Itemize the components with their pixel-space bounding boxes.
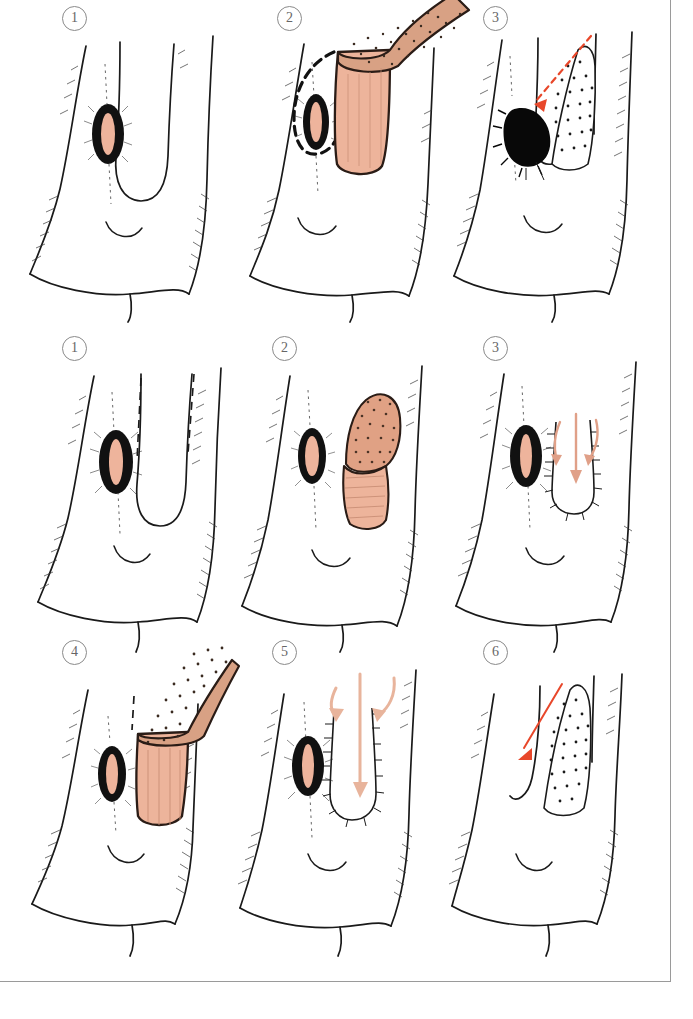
lesion <box>502 425 551 491</box>
body-outline <box>240 670 416 956</box>
dashed-planning-line <box>132 696 134 730</box>
navel-crease <box>308 854 346 870</box>
lesion <box>295 94 339 150</box>
panel-row3-2: 5 <box>238 638 469 956</box>
panel-row2-2: 2 <box>238 334 469 652</box>
dashed-planning-lines <box>137 374 194 460</box>
shading-hatch <box>458 374 632 591</box>
panel-row3-3: 6 <box>452 638 683 956</box>
salmon-arrow-heads <box>329 708 386 798</box>
shading-hatch <box>238 682 412 897</box>
salmon-arrow-heads <box>551 454 595 484</box>
lesion <box>91 746 135 806</box>
navel-crease <box>312 550 350 566</box>
navel-crease <box>106 222 142 237</box>
stippled-donor-area <box>552 47 595 170</box>
panel-row2-3: 3 <box>452 334 683 652</box>
raised-pedicled-flap <box>335 0 469 174</box>
lesion <box>284 736 333 801</box>
figure-frame: 1 <box>0 0 671 982</box>
three-salmon-arrows <box>331 674 394 786</box>
lesion <box>90 430 142 495</box>
body-outline <box>38 368 221 652</box>
red-arrow-head <box>518 748 532 760</box>
navel-crease <box>516 854 552 870</box>
shading-hatch <box>32 50 209 271</box>
panel-row1-2: 2 <box>238 4 469 322</box>
stippled-donor-area <box>544 685 591 815</box>
sutured-defect-edge <box>330 708 376 820</box>
folded-flap-island <box>343 394 400 529</box>
panel-row1-1: 1 <box>8 4 239 322</box>
panel-row1-3: 3 <box>452 4 683 322</box>
body-outline <box>456 362 636 652</box>
navel-crease <box>114 546 150 562</box>
panel-row3-1: 4 <box>8 638 239 956</box>
navel-crease <box>524 216 562 232</box>
lesion <box>291 428 335 488</box>
panel-row2-1: 1 <box>8 334 239 652</box>
body-outline <box>452 674 622 956</box>
lesion <box>84 104 132 164</box>
large-raised-flap <box>137 647 240 825</box>
navel-crease <box>298 218 336 234</box>
body-outline <box>30 36 213 322</box>
sutured-defect-edge <box>552 420 594 514</box>
navel-crease <box>526 548 564 564</box>
filled-black-defect <box>493 108 550 177</box>
navel-crease <box>108 846 144 862</box>
